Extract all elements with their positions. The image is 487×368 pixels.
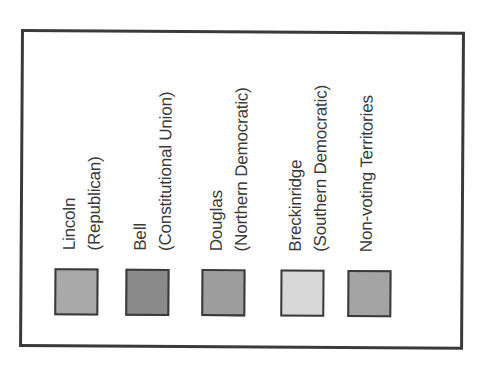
color-swatch-non-voting <box>347 270 391 317</box>
candidate-name: Douglas <box>204 87 230 251</box>
legend-box: Lincoln (Republican) Bell (Constitutiona… <box>19 29 465 350</box>
color-swatch-douglas <box>201 269 245 316</box>
candidate-name: Bell <box>128 92 154 251</box>
color-swatch-bell <box>125 269 169 316</box>
legend-label-douglas: Douglas (Northern Democratic) <box>204 87 255 251</box>
party-name: (Northern Democratic) <box>229 87 255 251</box>
territory-label: Non-voting Territories <box>354 95 380 252</box>
legend-entry-bell: Bell (Constitutional Union) <box>125 33 187 345</box>
legend-entry-lincoln: Lincoln (Republican) <box>54 32 116 344</box>
legend-entry-non-voting: Non-voting Territories <box>347 34 409 346</box>
legend-entry-breckinridge: Breckinridge (Southern Democratic) <box>280 34 342 346</box>
legend-label-breckinridge: Breckinridge (Southern Democratic) <box>283 85 334 252</box>
party-name: (Southern Democratic) <box>308 85 334 252</box>
legend-label-lincoln: Lincoln (Republican) <box>57 156 108 250</box>
party-name: (Republican) <box>82 156 108 250</box>
candidate-name: Lincoln <box>57 156 83 250</box>
legend-label-bell: Bell (Constitutional Union) <box>128 92 179 251</box>
color-swatch-breckinridge <box>280 270 324 317</box>
legend-entry-douglas: Douglas (Northern Democratic) <box>201 33 263 345</box>
legend-label-non-voting: Non-voting Territories <box>354 95 380 252</box>
color-swatch-lincoln <box>54 268 98 315</box>
candidate-name: Breckinridge <box>283 85 309 252</box>
party-name: (Constitutional Union) <box>153 92 179 251</box>
